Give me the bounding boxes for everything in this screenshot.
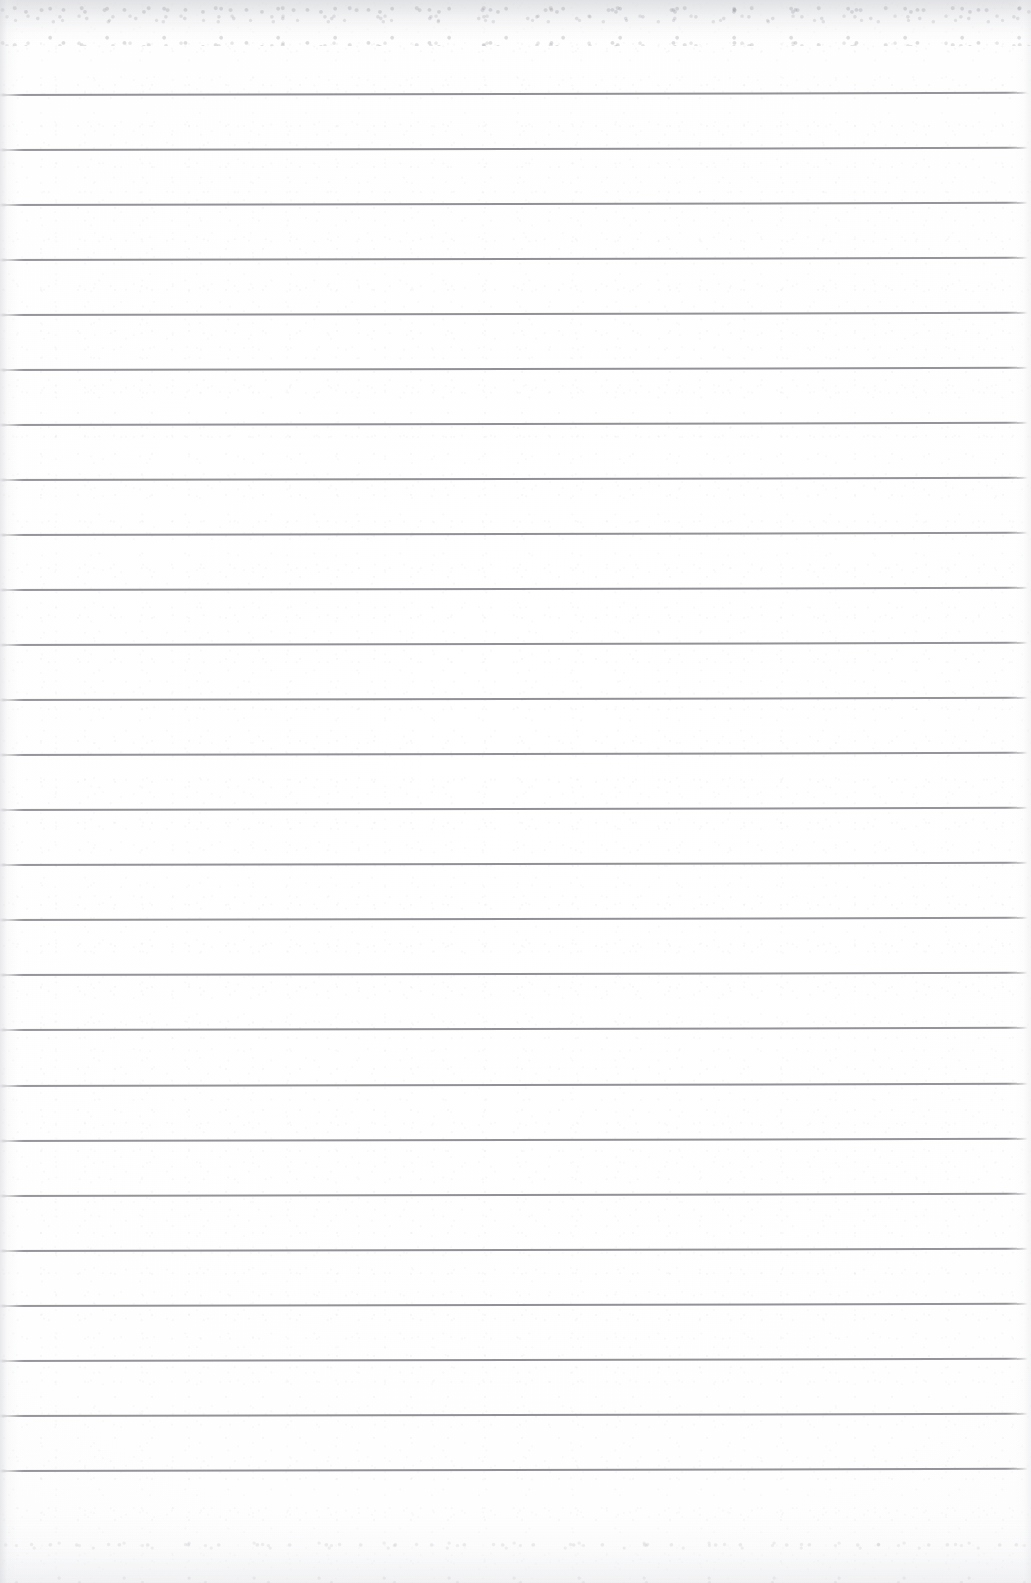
scanned-page	[0, 0, 1031, 1583]
paper-sheet	[0, 0, 1031, 1583]
